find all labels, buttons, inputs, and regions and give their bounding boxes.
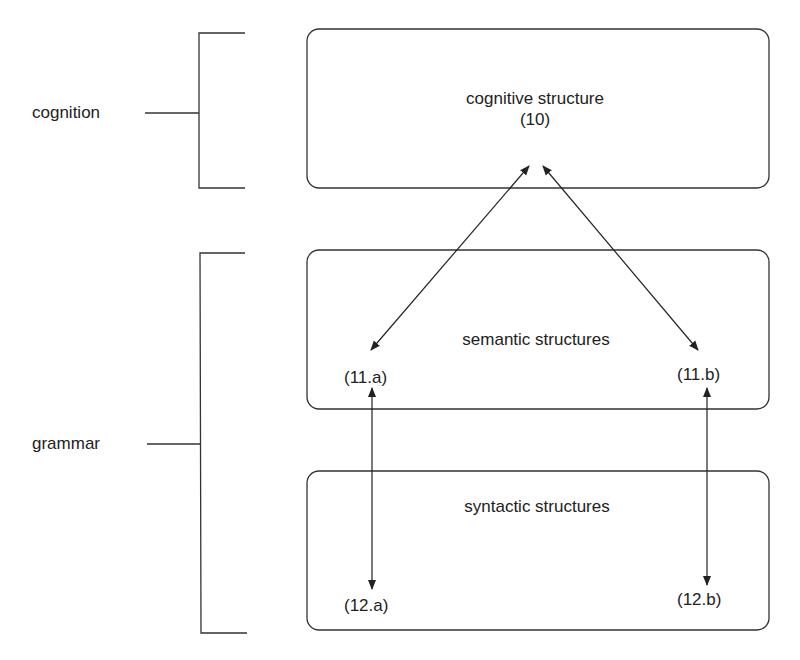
diagram-canvas <box>0 0 800 660</box>
grammar-label: grammar <box>32 434 100 454</box>
semantic-structures-title: semantic structures <box>462 330 609 350</box>
syntactic-structures-title: syntactic structures <box>464 497 610 517</box>
ref-11b: (11.b) <box>677 365 720 385</box>
cognition-bracket <box>145 33 245 188</box>
arrow-10-11b <box>543 166 698 350</box>
ref-11a: (11.a) <box>344 368 387 388</box>
cognition-label: cognition <box>32 103 100 123</box>
arrow-10-11a <box>371 166 529 350</box>
cognitive-structure-number: (10) <box>520 110 550 130</box>
ref-12b: (12.b) <box>677 590 721 610</box>
grammar-bracket <box>147 253 247 633</box>
cognitive-structure-title: cognitive structure <box>466 89 604 109</box>
ref-12a: (12.a) <box>344 596 388 616</box>
